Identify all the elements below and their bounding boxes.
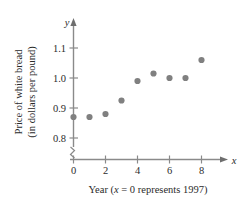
- scatter-plot-figure: 1.1 1.0 0.9 0.8 0 2 4 6 8 y x: [0, 0, 244, 201]
- data-point: [182, 75, 188, 81]
- y-axis-label-line2: (in dollars per pound): [26, 46, 38, 138]
- x-tick-label-6: 6: [167, 165, 172, 176]
- y-axis-label: Price of white bread (in dollars per pou…: [13, 46, 38, 138]
- chart-canvas: 1.1 1.0 0.9 0.8 0 2 4 6 8 y x: [0, 0, 244, 201]
- x-axis-symbol: x: [231, 155, 237, 166]
- x-axis-label-prefix: Year (: [89, 184, 115, 196]
- y-tick-label-1.0: 1.0: [53, 73, 66, 84]
- data-point: [198, 57, 204, 63]
- y-tick-label-0.9: 0.9: [53, 103, 66, 114]
- data-point: [70, 114, 76, 120]
- y-axis-label-line1: Price of white bread: [13, 49, 24, 135]
- data-point: [166, 75, 172, 81]
- x-axis-label-suffix: = 0 represents 1997): [119, 184, 208, 196]
- data-point-series: [70, 57, 204, 120]
- data-point: [134, 78, 140, 84]
- y-tick-label-0.8: 0.8: [53, 133, 66, 144]
- y-axis-arrowhead: [70, 18, 76, 26]
- data-point: [86, 114, 92, 120]
- x-tick-label-2: 2: [103, 165, 108, 176]
- y-tick-label-1.1: 1.1: [53, 43, 66, 54]
- x-tick-label-0: 0: [71, 165, 76, 176]
- y-axis-symbol: y: [64, 17, 70, 28]
- x-tick-label-8: 8: [199, 165, 204, 176]
- x-axis-arrowhead: [220, 156, 228, 162]
- data-point: [102, 111, 108, 117]
- data-point: [150, 70, 156, 76]
- x-axis-label: Year (x = 0 represents 1997): [89, 184, 208, 196]
- data-point: [118, 97, 124, 103]
- x-tick-label-4: 4: [135, 165, 141, 176]
